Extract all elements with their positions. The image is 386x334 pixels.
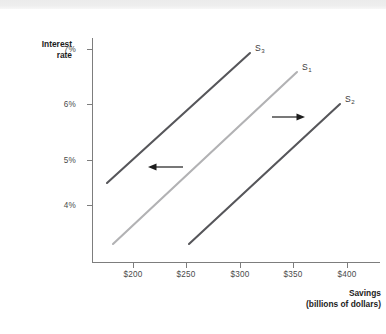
curve-s2: [189, 104, 340, 244]
savings-supply-curve-chart: Interest rate Savings (billions of dolla…: [0, 0, 386, 334]
y-tick-marks: [87, 50, 93, 206]
curve-s3: [107, 53, 250, 183]
curve-s1: [113, 72, 297, 244]
axis-lines: [93, 38, 381, 263]
rightward-shift-arrow: [272, 113, 305, 120]
leftward-shift-arrow: [148, 163, 183, 170]
x-tick-marks: [134, 263, 348, 269]
plot-area: [0, 0, 386, 334]
